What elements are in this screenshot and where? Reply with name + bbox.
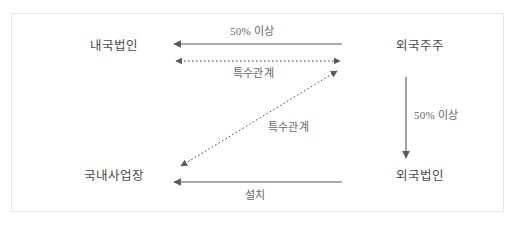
edge-label-top-ownership: 50% 이상 (230, 26, 274, 37)
edge-label-right-ownership: 50% 이상 (414, 110, 458, 121)
edge-label-diagonal-relation: 특수관계 (268, 122, 309, 133)
node-domestic-corp: 내국법인 (66, 40, 162, 53)
node-foreign-corporation: 외국법인 (372, 170, 468, 183)
edge-label-top-relation: 특수관계 (233, 68, 274, 79)
diagram-canvas: 내국법인 외국주주 국내사업장 외국법인 50% 이상 특수관계 특수관계 50… (0, 0, 518, 229)
node-foreign-shareholder: 외국주주 (372, 40, 468, 53)
node-domestic-business-place: 국내사업장 (64, 170, 164, 183)
edge-label-bottom-install: 설치 (245, 190, 265, 201)
